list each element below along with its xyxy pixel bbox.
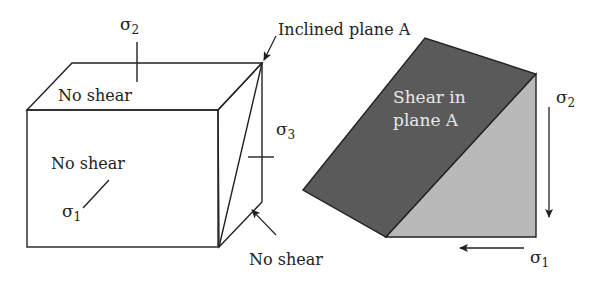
- block-front-face: [27, 110, 218, 247]
- shear-in-plane-label-line1: Shear in: [393, 87, 466, 107]
- front-face-no-shear-label: No shear: [51, 154, 125, 173]
- inclined-plane-edge: [219, 63, 262, 247]
- stress-block-diagram: σ2 No shear No shear σ1 σ3 Inclined plan…: [0, 0, 604, 281]
- inclined-plane-a-label: Inclined plane A: [278, 20, 411, 39]
- top-face-no-shear-label: No shear: [58, 86, 132, 105]
- sigma1-label: σ1: [62, 201, 81, 224]
- side-face-no-shear-label: No shear: [249, 250, 323, 269]
- sigma2-label: σ2: [120, 14, 139, 37]
- inclined-plane-pointer-arrow: [264, 36, 276, 60]
- shear-in-plane-label-line2: plane A: [393, 110, 459, 130]
- sigma1-tick: [83, 180, 109, 208]
- side-face-pointer-arrow: [252, 210, 276, 235]
- cut-wedge: Shear in plane A σ2 σ1: [303, 38, 575, 270]
- wedge-sigma2-label: σ2: [556, 87, 575, 110]
- wedge-sigma1-label: σ1: [530, 247, 549, 270]
- sigma3-label: σ3: [276, 119, 295, 142]
